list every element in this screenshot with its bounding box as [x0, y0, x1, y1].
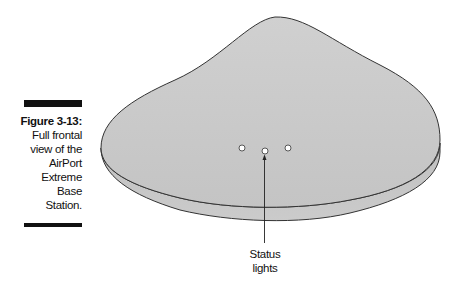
status-light-icon — [285, 145, 291, 151]
status-light-icon — [239, 145, 245, 151]
callout-line: lights — [240, 261, 290, 275]
callout-line: Status — [240, 247, 290, 261]
base-dome-top — [101, 17, 440, 207]
status-lights-callout: Status lights — [240, 247, 290, 275]
status-light-icon — [262, 148, 268, 154]
base-station-illustration — [0, 0, 462, 288]
